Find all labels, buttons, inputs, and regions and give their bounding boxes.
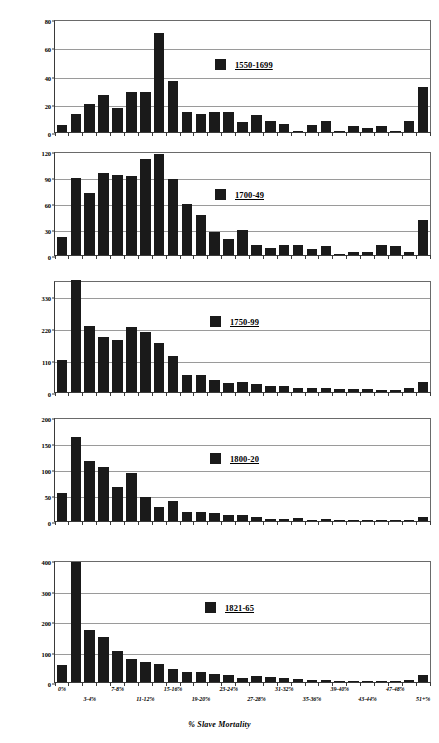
- bar[interactable]: [182, 112, 193, 132]
- bar[interactable]: [140, 497, 151, 521]
- bar[interactable]: [196, 512, 207, 521]
- bar[interactable]: [196, 114, 207, 132]
- bar[interactable]: [140, 92, 151, 132]
- bar[interactable]: [57, 360, 68, 392]
- bar[interactable]: [251, 115, 262, 132]
- bar[interactable]: [404, 121, 415, 132]
- bar[interactable]: [84, 104, 95, 132]
- bar[interactable]: [126, 176, 137, 255]
- y-axis-tick-label: 300: [42, 589, 51, 596]
- bar[interactable]: [154, 343, 165, 392]
- bar[interactable]: [223, 239, 234, 255]
- bar[interactable]: [98, 95, 109, 132]
- bar[interactable]: [71, 114, 82, 132]
- bar[interactable]: [168, 356, 179, 392]
- bar[interactable]: [84, 193, 95, 255]
- bar[interactable]: [223, 383, 234, 392]
- bar[interactable]: [209, 513, 220, 521]
- legend-swatch: [210, 316, 221, 327]
- bar[interactable]: [182, 512, 193, 521]
- bar[interactable]: [71, 280, 82, 392]
- bar[interactable]: [168, 501, 179, 521]
- bar[interactable]: [209, 674, 220, 682]
- x-axis-tick-mark: [249, 255, 263, 259]
- bar[interactable]: [140, 662, 151, 682]
- bar[interactable]: [182, 672, 193, 682]
- y-axis-tick-label: 60: [45, 202, 51, 209]
- bar[interactable]: [112, 175, 123, 255]
- bar[interactable]: [126, 473, 137, 521]
- bar[interactable]: [57, 493, 68, 521]
- bar[interactable]: [112, 340, 123, 392]
- bar[interactable]: [112, 108, 123, 132]
- bar[interactable]: [390, 246, 401, 255]
- bar[interactable]: [182, 375, 193, 392]
- bar[interactable]: [196, 672, 207, 682]
- bar-slot: [263, 562, 277, 682]
- bar[interactable]: [251, 245, 262, 255]
- bar-slot: [249, 282, 263, 392]
- bar[interactable]: [279, 124, 290, 132]
- bar[interactable]: [57, 237, 68, 255]
- legend: 1550-1699: [215, 59, 273, 70]
- bar[interactable]: [237, 230, 248, 255]
- bar[interactable]: [126, 92, 137, 132]
- bar[interactable]: [154, 33, 165, 132]
- x-axis-label-slot: 7-8%: [111, 682, 125, 708]
- bar[interactable]: [140, 159, 151, 255]
- bar[interactable]: [154, 664, 165, 682]
- bar[interactable]: [376, 245, 387, 255]
- bar[interactable]: [98, 173, 109, 255]
- bar[interactable]: [237, 122, 248, 132]
- bar[interactable]: [71, 437, 82, 521]
- bar[interactable]: [126, 327, 137, 392]
- bar[interactable]: [223, 675, 234, 682]
- bar[interactable]: [84, 461, 95, 521]
- bar[interactable]: [168, 669, 179, 682]
- bar[interactable]: [265, 121, 276, 132]
- bar[interactable]: [112, 487, 123, 521]
- bar[interactable]: [321, 121, 332, 132]
- bar[interactable]: [279, 245, 290, 255]
- bar[interactable]: [140, 332, 151, 392]
- bar[interactable]: [154, 154, 165, 255]
- bar[interactable]: [98, 337, 109, 392]
- bar[interactable]: [418, 675, 429, 682]
- y-axis-tick-label: 100: [42, 468, 51, 475]
- bar[interactable]: [98, 467, 109, 521]
- x-axis-tick-mark: [138, 521, 152, 525]
- bar[interactable]: [418, 87, 429, 132]
- bar[interactable]: [71, 178, 82, 255]
- bar[interactable]: [209, 112, 220, 132]
- bar[interactable]: [418, 382, 429, 392]
- bar[interactable]: [57, 125, 68, 132]
- bar[interactable]: [293, 245, 304, 255]
- bar-slot: [138, 562, 152, 682]
- bar[interactable]: [307, 125, 318, 132]
- bar[interactable]: [126, 659, 137, 682]
- bar[interactable]: [418, 220, 429, 255]
- bar-slot: [97, 562, 111, 682]
- bar[interactable]: [251, 384, 262, 392]
- bar[interactable]: [209, 380, 220, 392]
- bar[interactable]: [182, 204, 193, 255]
- bar[interactable]: [265, 248, 276, 255]
- bar[interactable]: [112, 651, 123, 682]
- bar[interactable]: [196, 215, 207, 255]
- bar[interactable]: [321, 246, 332, 255]
- x-axis-tick-mark: [180, 255, 194, 259]
- bar[interactable]: [168, 179, 179, 255]
- bar[interactable]: [223, 112, 234, 132]
- bar[interactable]: [237, 382, 248, 392]
- bar-slot: [277, 21, 291, 132]
- bar[interactable]: [84, 630, 95, 682]
- bar[interactable]: [154, 507, 165, 521]
- bar[interactable]: [168, 81, 179, 132]
- bar[interactable]: [84, 326, 95, 392]
- bar[interactable]: [57, 665, 68, 682]
- bar[interactable]: [71, 562, 82, 682]
- bar[interactable]: [98, 637, 109, 682]
- x-axis-tick-mark: [194, 521, 208, 525]
- bar[interactable]: [209, 232, 220, 255]
- bar[interactable]: [196, 375, 207, 392]
